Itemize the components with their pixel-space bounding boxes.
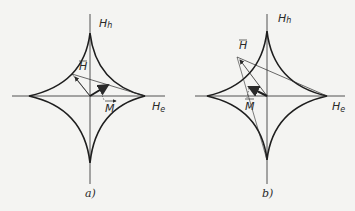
label-h-vector-a: H <box>79 60 87 73</box>
h-vector-base-a <box>72 74 90 96</box>
label-hh-b: Hh <box>278 12 291 25</box>
figure-canvas: Hh He H M a) Hh He H M b) <box>0 0 355 211</box>
panel-b: Hh He H M b) <box>195 12 345 200</box>
label-he-a: He <box>152 100 165 114</box>
tangent-line-b <box>237 57 327 96</box>
caption-b: b) <box>262 187 273 200</box>
panel-a: Hh He H M a) <box>12 14 165 200</box>
label-m-vector-b: M <box>245 100 255 113</box>
m-dashed-a <box>100 90 104 100</box>
astroid-curve-a <box>29 33 145 163</box>
m-vector-a <box>90 85 108 96</box>
label-m-vector-a: M <box>105 102 115 115</box>
label-h-vector-b: H <box>239 39 247 52</box>
m-vector-b <box>249 87 267 96</box>
label-he-b: He <box>332 100 345 114</box>
label-hh-a: Hh <box>99 17 112 30</box>
caption-a: a) <box>85 187 96 200</box>
